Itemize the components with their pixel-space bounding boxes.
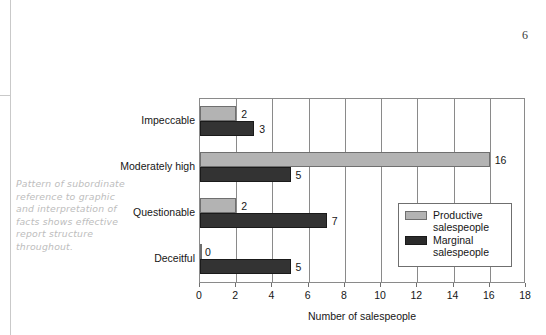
x-tick-mark: [235, 283, 236, 287]
bar-productive: [200, 152, 490, 167]
bar-productive: [200, 244, 202, 259]
bar-chart: 231652705 ImpeccableModerately highQuest…: [0, 0, 546, 335]
x-tick-label: 4: [269, 289, 275, 301]
bar-group-row: 2: [200, 106, 526, 121]
x-tick-mark: [271, 283, 272, 287]
x-tick-label: 12: [410, 289, 422, 301]
x-tick-mark: [416, 283, 417, 287]
legend-label-marginal: Marginal salespeople: [433, 234, 505, 258]
bar-marginal: [200, 167, 291, 182]
bar-group-row: 16: [200, 152, 526, 167]
x-tick-label: 2: [232, 289, 238, 301]
bar-marginal: [200, 121, 254, 136]
category-label: Impeccable: [0, 114, 195, 126]
x-tick-mark: [380, 283, 381, 287]
bar-value-label: 3: [259, 123, 265, 135]
bar-value-label: 2: [241, 108, 247, 120]
x-axis-title: Number of salespeople: [199, 310, 525, 322]
legend-item: Productive salespeople: [405, 209, 505, 233]
bar-value-label: 0: [205, 246, 211, 258]
bar-value-label: 16: [495, 154, 507, 166]
bar-value-label: 2: [241, 200, 247, 212]
x-tick-mark: [525, 283, 526, 287]
legend-swatch-productive: [405, 211, 427, 220]
category-label: Deceitful: [0, 252, 195, 264]
legend-item: Marginal salespeople: [405, 234, 505, 258]
x-tick-label: 6: [305, 289, 311, 301]
category-label: Questionable: [0, 206, 195, 218]
bar-group-row: 5: [200, 167, 526, 182]
x-tick-label: 0: [196, 289, 202, 301]
x-tick-label: 16: [483, 289, 495, 301]
x-tick-label: 10: [374, 289, 386, 301]
bar-group-row: 3: [200, 121, 526, 136]
document-page: 6 Pattern of subordinate reference to gr…: [0, 0, 546, 335]
x-tick-mark: [453, 283, 454, 287]
x-tick-mark: [199, 283, 200, 287]
x-tick-label: 14: [447, 289, 459, 301]
legend-label-productive: Productive salespeople: [433, 209, 505, 233]
x-tick-mark: [489, 283, 490, 287]
bar-productive: [200, 106, 236, 121]
x-tick-label: 18: [519, 289, 531, 301]
x-tick-mark: [308, 283, 309, 287]
bar-value-label: 5: [296, 261, 302, 273]
bar-marginal: [200, 259, 291, 274]
bar-productive: [200, 198, 236, 213]
category-label: Moderately high: [0, 160, 195, 172]
x-tick-mark: [344, 283, 345, 287]
bar-value-label: 7: [332, 215, 338, 227]
bar-marginal: [200, 213, 327, 228]
chart-legend: Productive salespeople Marginal salespeo…: [398, 203, 512, 267]
x-tick-label: 8: [341, 289, 347, 301]
bar-value-label: 5: [296, 169, 302, 181]
legend-swatch-marginal: [405, 236, 427, 245]
